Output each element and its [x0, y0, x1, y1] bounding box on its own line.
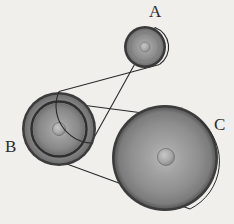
pulley-a	[124, 26, 166, 68]
pulley-label-c: C	[214, 116, 225, 133]
pulley-diagram-figure: A B C	[0, 0, 234, 224]
pulley-diagram-canvas	[0, 0, 234, 224]
pulley-b	[22, 92, 96, 166]
pulley-label-a: A	[149, 3, 161, 20]
pulley-c-hub	[158, 149, 175, 166]
pulley-a-hub	[140, 42, 150, 52]
pulley-c	[112, 105, 218, 211]
pulley-label-b: B	[5, 138, 16, 155]
